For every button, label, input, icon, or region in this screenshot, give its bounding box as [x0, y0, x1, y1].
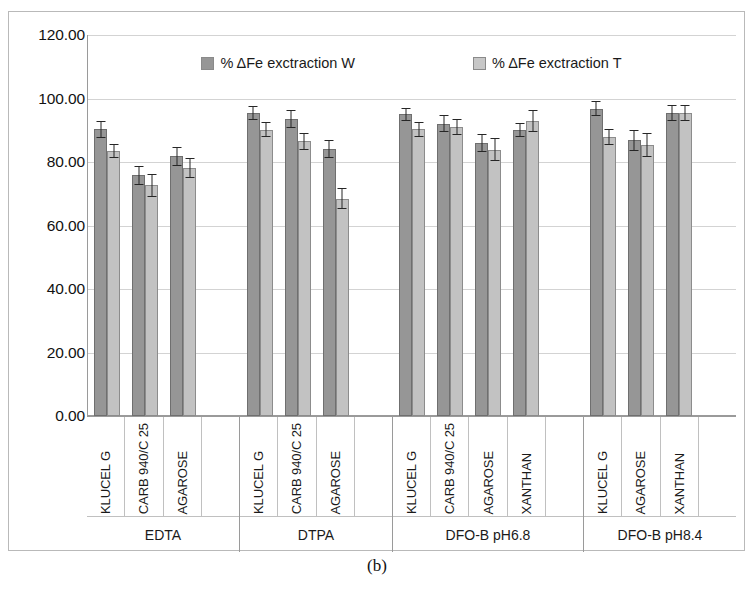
- bar-w[interactable]: [94, 129, 107, 416]
- bar-w[interactable]: [628, 140, 641, 416]
- bar-wrapper: [412, 35, 425, 416]
- bar-wrapper: [361, 35, 374, 416]
- bar-w[interactable]: [399, 114, 412, 416]
- y-axis: 120.00100.0080.0060.0040.0020.000.00: [9, 12, 85, 552]
- error-bar-cap-top: [338, 188, 347, 189]
- bar-t[interactable]: [603, 137, 616, 416]
- chart-legend: % ΔFe exctraction W% ΔFe exctraction T: [87, 52, 736, 74]
- bar-group: [88, 35, 240, 416]
- bar-w[interactable]: [170, 156, 183, 416]
- bar-wrapper: [170, 35, 183, 416]
- bar-w[interactable]: [513, 130, 526, 416]
- category-label-cell: KLUCEL G: [584, 417, 622, 516]
- bar-wrapper: [526, 35, 539, 416]
- bar-w[interactable]: [590, 109, 603, 416]
- category-labels-row: KLUCEL GCARB 940/C 25AGAROSE: [87, 417, 239, 516]
- category-label-cell: KLUCEL G: [87, 417, 125, 516]
- bar-slot-empty: [545, 35, 583, 416]
- error-bar-cap-top: [262, 122, 271, 123]
- bar-wrapper: [374, 35, 387, 416]
- category-label: KLUCEL G: [252, 451, 265, 514]
- bar-slot-empty: [355, 35, 393, 416]
- bar-slot: [393, 35, 431, 416]
- bar-w[interactable]: [132, 175, 145, 416]
- error-bar-cap-top: [630, 130, 639, 131]
- bar-t[interactable]: [183, 168, 196, 416]
- bar-slot: [507, 35, 545, 416]
- bar-t[interactable]: [488, 150, 501, 416]
- legend-swatch-icon: [473, 57, 486, 70]
- bars-layer: [88, 35, 736, 416]
- category-label: KLUCEL G: [99, 451, 112, 514]
- bar-wrapper: [590, 35, 603, 416]
- bar-w[interactable]: [437, 124, 450, 416]
- error-bar-cap-top: [592, 101, 601, 102]
- category-group: KLUCEL GCARB 940/C 25AGAROSEXANTHANDFO-B…: [393, 417, 584, 552]
- error-bar-cap-top: [414, 122, 423, 123]
- legend-label: % ΔFe exctraction T: [492, 55, 622, 71]
- bar-t[interactable]: [526, 121, 539, 416]
- category-label: KLUCEL G: [405, 451, 418, 514]
- error-bar-cap-top: [109, 144, 118, 145]
- bar-w[interactable]: [323, 149, 336, 416]
- bar-wrapper: [247, 35, 260, 416]
- bar-t[interactable]: [336, 199, 349, 416]
- category-axis-band: KLUCEL GCARB 940/C 25AGAROSEEDTAKLUCEL G…: [87, 416, 736, 552]
- category-label: AGAROSE: [482, 451, 495, 515]
- error-bar-cap-top: [134, 166, 143, 167]
- error-bar-cap-top: [401, 108, 410, 109]
- category-labels-row: KLUCEL GCARB 940/C 25AGAROSE: [240, 417, 392, 516]
- group-label: EDTA: [87, 516, 239, 552]
- bar-t[interactable]: [412, 129, 425, 416]
- bar-t[interactable]: [641, 145, 654, 416]
- category-label-cell-empty: [546, 417, 583, 516]
- bar-t[interactable]: [107, 151, 120, 416]
- bar-wrapper: [323, 35, 336, 416]
- bar-wrapper: [628, 35, 641, 416]
- category-label: AGAROSE: [176, 451, 189, 515]
- category-label-cell: AGAROSE: [164, 417, 202, 516]
- plot-area: [87, 35, 736, 416]
- bar-wrapper: [285, 35, 298, 416]
- error-bar-cap-top: [96, 121, 105, 122]
- bar-wrapper: [221, 35, 234, 416]
- bar-slot: [469, 35, 507, 416]
- error-bar-cap-top: [681, 105, 690, 106]
- category-label: CARB 940/C 25: [443, 423, 456, 514]
- error-bar-cap-top: [490, 138, 499, 139]
- bar-w[interactable]: [666, 113, 679, 416]
- category-label-cell-empty: [202, 417, 239, 516]
- bar-w[interactable]: [475, 143, 488, 416]
- category-label-cell: AGAROSE: [317, 417, 355, 516]
- category-label-cell: AGAROSE: [622, 417, 660, 516]
- y-axis-tick-label: 20.00: [13, 345, 85, 361]
- y-axis-tick-label: 60.00: [13, 218, 85, 234]
- bar-wrapper: [603, 35, 616, 416]
- group-label: DTPA: [240, 516, 392, 552]
- bar-wrapper: [475, 35, 488, 416]
- group-label: DFO-B pH6.8: [393, 516, 583, 552]
- figure-caption: (b): [0, 556, 754, 576]
- legend-item[interactable]: % ΔFe exctraction T: [473, 55, 622, 71]
- error-bar-cap-top: [249, 106, 258, 107]
- y-axis-tick-label: 0.00: [13, 408, 85, 424]
- category-labels-row: KLUCEL GAGAROSEXANTHAN: [584, 417, 736, 516]
- bar-w[interactable]: [285, 119, 298, 416]
- bar-wrapper: [298, 35, 311, 416]
- bar-wrapper: [717, 35, 730, 416]
- category-label-cell: AGAROSE: [469, 417, 507, 516]
- legend-label: % ΔFe exctraction W: [220, 55, 355, 71]
- bar-t[interactable]: [679, 113, 692, 416]
- error-bar-cap-top: [477, 134, 486, 135]
- category-label-cell: CARB 940/C 25: [125, 417, 163, 516]
- bar-t[interactable]: [145, 185, 158, 416]
- bar-w[interactable]: [247, 113, 260, 416]
- bar-t[interactable]: [450, 127, 463, 416]
- bar-wrapper: [513, 35, 526, 416]
- bar-wrapper: [145, 35, 158, 416]
- bar-t[interactable]: [260, 130, 273, 416]
- bar-t[interactable]: [298, 141, 311, 416]
- error-bar-cap-top: [643, 133, 652, 134]
- error-bar-cap-top: [287, 110, 296, 111]
- legend-item[interactable]: % ΔFe exctraction W: [201, 55, 355, 71]
